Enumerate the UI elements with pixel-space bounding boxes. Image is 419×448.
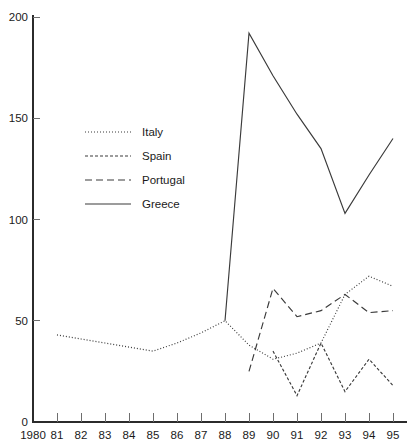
chart-legend: ItalySpainPortugalGreece [85,126,185,210]
y-tick-label: 200 [9,11,28,23]
x-tick-label: 87 [195,429,208,441]
x-tick-label: 90 [267,429,280,441]
x-tick-label: 85 [147,429,160,441]
x-tick-label: 82 [75,429,88,441]
x-tick-label: 81 [51,429,64,441]
x-tick-label: 1980 [20,429,46,441]
legend-label-italy: Italy [142,126,163,138]
series-line-portugal [249,288,393,371]
series-line-greece [225,33,393,321]
series-line-spain [273,343,393,396]
x-tick-label: 83 [99,429,112,441]
x-tick-label: 92 [315,429,328,441]
x-tick-label: 88 [219,429,232,441]
legend-label-spain: Spain [142,150,171,162]
x-tick-label: 95 [387,429,400,441]
x-tick-label: 91 [291,429,304,441]
x-axis: 1980818283848586878889909192939495 [20,413,407,441]
x-tick-label: 93 [339,429,352,441]
y-tick-label: 150 [9,112,28,124]
x-tick-label: 94 [363,429,376,441]
y-tick-label: 50 [15,315,28,327]
y-tick-label: 100 [9,214,28,226]
legend-label-greece: Greece [142,198,180,210]
x-tick-label: 84 [123,429,136,441]
chart-canvas: 050100150200 198081828384858687888990919… [0,0,419,448]
series-layer [57,33,393,395]
x-tick-label: 89 [243,429,256,441]
y-axis: 050100150200 [9,11,40,428]
legend-label-portugal: Portugal [142,174,185,186]
x-tick-label: 86 [171,429,184,441]
y-tick-label: 0 [22,416,28,428]
line-chart: 050100150200 198081828384858687888990919… [0,0,419,448]
